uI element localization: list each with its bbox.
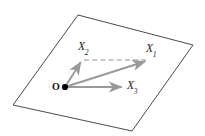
vector-label-x1: X1 [146,43,157,57]
vector-diagram-figure: O X1 X2 X3 [0,0,205,136]
vector-label-x2-base: X [78,40,85,52]
origin-dot [62,84,68,90]
origin-label: O [52,82,60,92]
diagram-canvas [0,0,205,136]
vector-label-x3-subscript: 3 [134,87,138,96]
vector-label-x2-subscript: 2 [85,48,89,57]
plane-parallelogram [13,15,193,131]
vector-label-x1-base: X [146,42,153,54]
vector-label-x3: X3 [127,80,138,94]
vector-label-x1-subscript: 1 [153,50,157,59]
vector-label-x2: X2 [78,41,89,55]
vector-label-x3-base: X [127,79,134,91]
